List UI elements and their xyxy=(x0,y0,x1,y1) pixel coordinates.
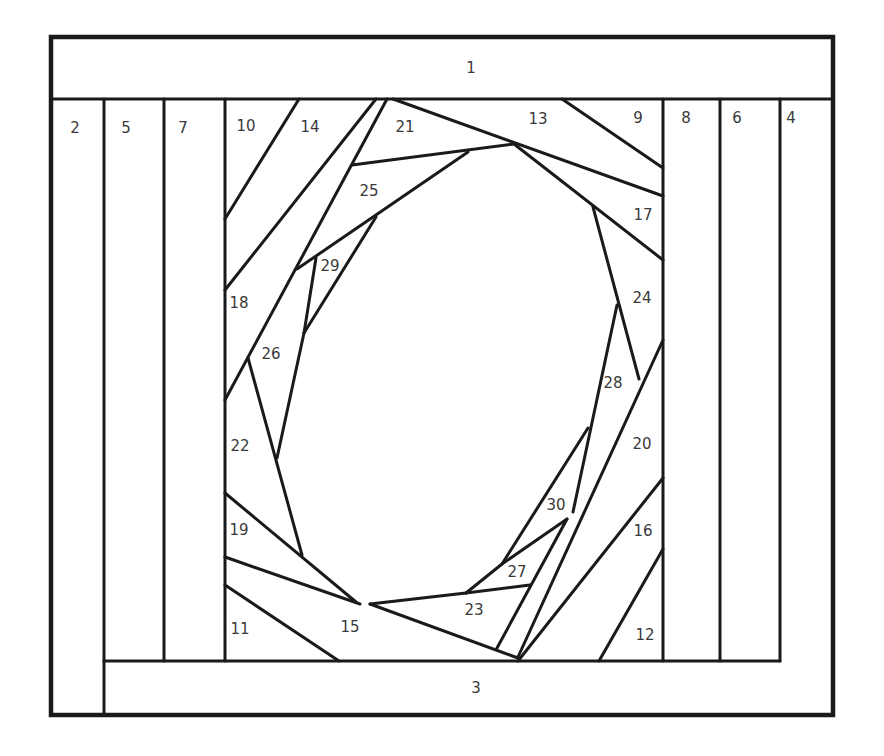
piece-label-16: 16 xyxy=(633,522,652,540)
piece-label-30: 30 xyxy=(546,496,565,514)
piece-label-3: 3 xyxy=(471,679,481,697)
piece-label-15: 15 xyxy=(340,618,359,636)
seam-21-25 xyxy=(352,144,514,165)
outer-frame xyxy=(51,37,833,715)
piece-label-29: 29 xyxy=(320,257,339,275)
piece-label-11: 11 xyxy=(230,620,249,638)
piece-label-28: 28 xyxy=(603,374,622,392)
piece-label-26: 26 xyxy=(261,345,280,363)
piece-label-7: 7 xyxy=(178,119,188,137)
piece-label-5: 5 xyxy=(121,119,131,137)
piece-label-18: 18 xyxy=(229,294,248,312)
piece-label-24: 24 xyxy=(632,289,651,307)
piece-label-8: 8 xyxy=(681,109,691,127)
seam-24-28 xyxy=(573,305,617,512)
piece-label-20: 20 xyxy=(632,435,651,453)
piece-label-14: 14 xyxy=(300,118,319,136)
piece-label-23: 23 xyxy=(464,601,483,619)
piece-label-22: 22 xyxy=(230,437,249,455)
piece-label-4: 4 xyxy=(786,109,796,127)
piece-label-9: 9 xyxy=(633,109,643,127)
seam-9-13 xyxy=(562,99,663,168)
piece-label-13: 13 xyxy=(528,110,547,128)
seam-30-27 xyxy=(502,519,567,564)
seam-28-20 xyxy=(518,340,663,657)
seam-16-12 xyxy=(599,549,663,661)
seam-15-lower xyxy=(370,604,518,658)
piece-label-12: 12 xyxy=(635,626,654,644)
seam-18-26 xyxy=(225,99,387,400)
seam-23-15 xyxy=(370,593,466,604)
quilt-pattern-diagram: 1234567891011121314151617181920212223242… xyxy=(0,0,884,756)
piece-label-25: 25 xyxy=(359,182,378,200)
seam-26-22 xyxy=(248,358,302,555)
seam-26-center xyxy=(277,333,304,458)
piece-label-27: 27 xyxy=(507,563,526,581)
piece-label-2: 2 xyxy=(70,119,80,137)
piece-label-6: 6 xyxy=(732,109,742,127)
seam-25-center xyxy=(297,152,468,269)
piece-label-21: 21 xyxy=(395,118,414,136)
seam-13-17 xyxy=(514,144,663,260)
piece-label-19: 19 xyxy=(229,521,248,539)
piece-label-10: 10 xyxy=(236,117,255,135)
piece-label-17: 17 xyxy=(633,206,652,224)
piece-label-1: 1 xyxy=(466,59,476,77)
